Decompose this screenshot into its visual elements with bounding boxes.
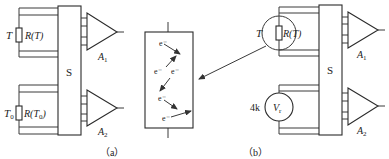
electron-label: e⁻ <box>158 94 166 103</box>
amplifier-a1-b <box>342 12 385 48</box>
resistor-rt-icon <box>276 26 282 40</box>
resistor-rt-icon <box>16 28 22 42</box>
temp-label-t: T <box>6 29 13 41</box>
electron-label: e⁻ <box>154 67 162 76</box>
amplifier-a1 <box>81 13 124 50</box>
circuit-diagram: T R(T) T0 R(T0) S A1 A2 （a） e⁻ e⁻ e⁻ e⁻ … <box>0 0 389 159</box>
electron-label: e⁻ <box>171 67 179 76</box>
resistor-label-rt0: R(T0) <box>23 108 47 121</box>
switch-label: S <box>66 66 72 78</box>
amplifier-label-a2-b: A2 <box>356 125 367 138</box>
amplifier-triangle-icon <box>348 88 378 125</box>
amplifier-a2 <box>81 90 124 126</box>
caption-b: （b） <box>243 147 268 158</box>
temp-label-t-b: T <box>256 27 263 39</box>
amplifier-label-a2: A2 <box>97 126 108 139</box>
amplifier-triangle-icon <box>87 13 117 50</box>
resistor-rt0-icon <box>16 106 22 120</box>
switch-label-b: S <box>327 64 333 76</box>
resistor-label-rt-b: R(T) <box>282 28 302 40</box>
amplifier-label-a1-b: A1 <box>356 49 367 62</box>
reference-value-label: 4k <box>250 102 260 113</box>
amplifier-triangle-icon <box>348 12 378 48</box>
electron-label: e⁻ <box>162 114 170 123</box>
electron-label: e⁻ <box>159 39 167 48</box>
panel-b <box>262 5 385 135</box>
magnify-pointer-arrow <box>199 46 266 79</box>
caption-a: （a） <box>100 147 124 158</box>
amplifier-triangle-icon <box>87 90 117 126</box>
amplifier-a2-b <box>342 88 385 125</box>
temp-label-t0: T0 <box>4 107 14 121</box>
resistor-label-rt: R(T) <box>24 30 44 42</box>
amplifier-label-a1: A1 <box>97 51 108 64</box>
